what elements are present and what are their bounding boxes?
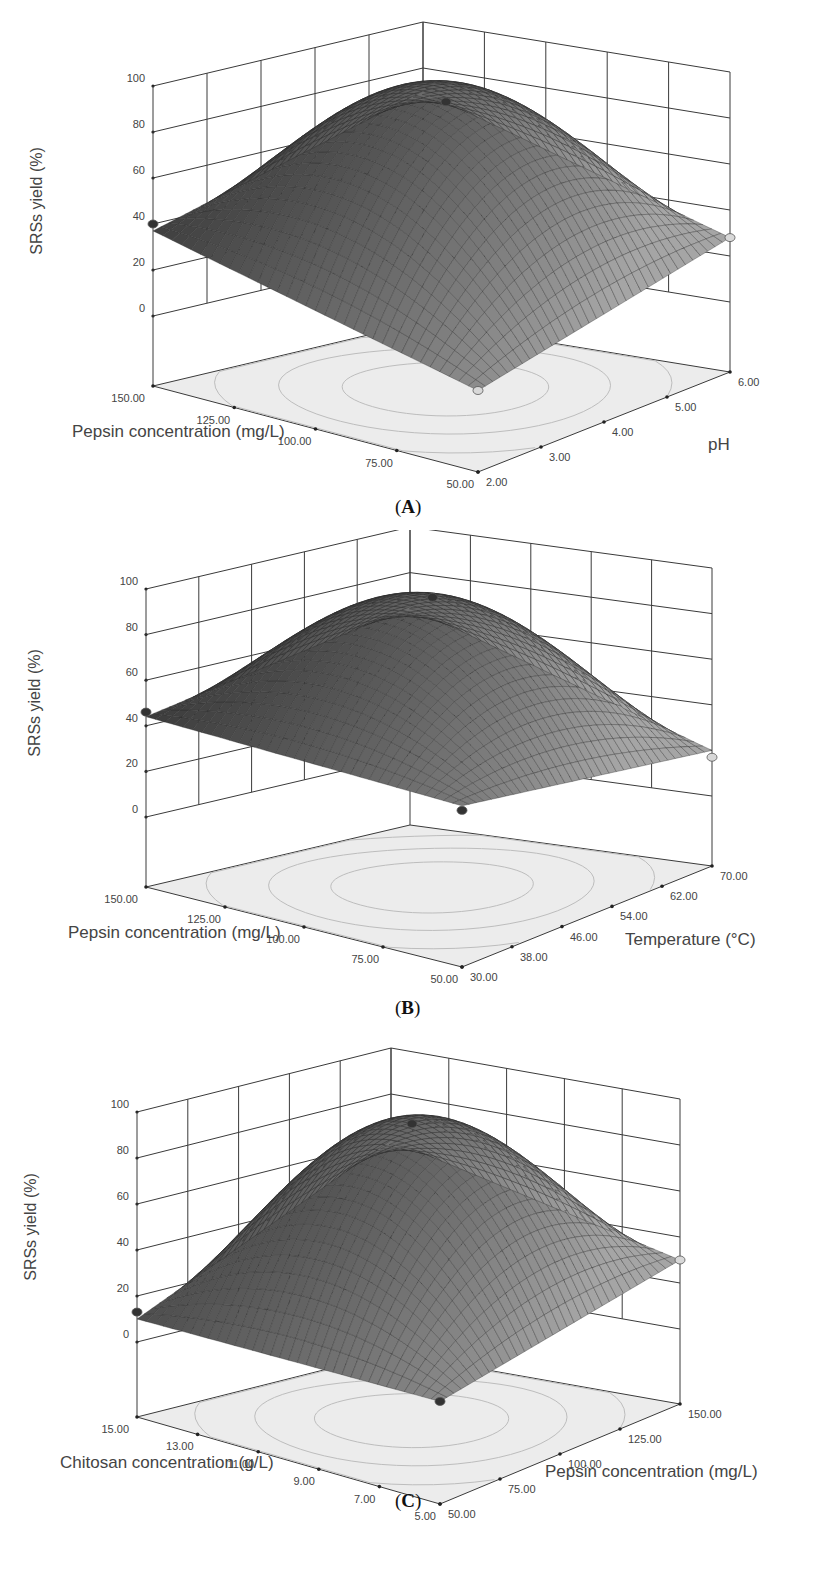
- z-tick-label: 60: [117, 1190, 129, 1202]
- x-tick-label: 15.00: [101, 1423, 129, 1435]
- y-axis-label: Pepsin concentration (mg/L): [545, 1462, 758, 1481]
- z-axis-label: SRSs yield (%): [28, 147, 45, 255]
- z-axis-label: SRSs yield (%): [26, 649, 43, 757]
- z-tick-label: 60: [126, 666, 138, 678]
- x-tick-label: 50.00: [446, 478, 474, 490]
- y-tick-label: 62.00: [670, 890, 698, 902]
- z-tick-label: 100: [127, 72, 145, 84]
- design-point: [457, 806, 467, 814]
- x-tick-label: 13.00: [166, 1440, 194, 1452]
- z-tick-label: 0: [132, 803, 138, 815]
- x-axis-label: Chitosan concentration (g/L): [60, 1453, 274, 1472]
- surface-chart-c: 02040608010015.0013.0011.009.007.005.005…: [0, 1030, 832, 1530]
- z-tick-label: 80: [126, 621, 138, 633]
- design-point: [435, 1397, 445, 1405]
- z-tick-label: 0: [123, 1328, 129, 1340]
- x-axis-label: Pepsin concentration (mg/L): [68, 923, 281, 942]
- x-axis-label: Pepsin concentration (mg/L): [72, 422, 285, 441]
- y-tick-label: 70.00: [720, 870, 748, 882]
- x-tick-label: 75.00: [351, 953, 379, 965]
- design-point: [132, 1308, 142, 1316]
- y-tick-label: 5.00: [675, 401, 696, 413]
- z-tick-label: 40: [117, 1236, 129, 1248]
- panel-label-c: (C): [395, 1490, 421, 1512]
- y-tick-label: 4.00: [612, 426, 633, 438]
- response-surface: [153, 81, 730, 391]
- response-surface: [137, 1115, 680, 1402]
- x-tick-label: 150.00: [104, 893, 138, 905]
- y-tick-label: 125.00: [628, 1433, 662, 1445]
- x-tick-label: 150.00: [111, 392, 145, 404]
- z-axis-label: SRSs yield (%): [22, 1173, 39, 1281]
- panel-label-a: (A): [395, 496, 421, 518]
- design-point: [473, 387, 483, 395]
- panel-label-b: (B): [395, 997, 420, 1019]
- panel-c: 02040608010015.0013.0011.009.007.005.005…: [0, 1030, 832, 1570]
- y-tick-label: 54.00: [620, 910, 648, 922]
- response-surface: [146, 592, 712, 806]
- x-tick-label: 7.00: [354, 1493, 375, 1505]
- z-tick-label: 100: [120, 575, 138, 587]
- z-tick-label: 40: [126, 712, 138, 724]
- z-tick-label: 20: [133, 256, 145, 268]
- y-tick-label: 30.00: [470, 971, 498, 983]
- design-point: [441, 98, 451, 106]
- y-tick-label: 2.00: [486, 476, 507, 488]
- z-tick-label: 40: [133, 210, 145, 222]
- surface-chart-a: 020406080100150.00125.00100.0075.0050.00…: [0, 0, 832, 500]
- z-tick-label: 0: [139, 302, 145, 314]
- z-tick-label: 60: [133, 164, 145, 176]
- y-tick-label: 50.00: [448, 1508, 476, 1520]
- z-tick-label: 20: [126, 757, 138, 769]
- z-tick-label: 20: [117, 1282, 129, 1294]
- design-point: [725, 234, 735, 242]
- design-point: [675, 1256, 685, 1264]
- design-point: [707, 753, 717, 761]
- panel-b: 020406080100150.00125.00100.0075.0050.00…: [0, 530, 832, 1030]
- y-tick-label: 150.00: [688, 1408, 722, 1420]
- z-tick-label: 80: [133, 118, 145, 130]
- x-tick-label: 75.00: [365, 457, 393, 469]
- y-axis-label: pH: [708, 435, 730, 454]
- design-point: [148, 220, 158, 228]
- design-point: [407, 1120, 417, 1128]
- y-tick-label: 6.00: [738, 376, 759, 388]
- x-tick-label: 50.00: [430, 973, 458, 985]
- y-axis-label: Temperature (°C): [625, 930, 756, 949]
- y-tick-label: 38.00: [520, 951, 548, 963]
- design-point: [428, 593, 438, 601]
- z-tick-label: 80: [117, 1144, 129, 1156]
- panel-a: 020406080100150.00125.00100.0075.0050.00…: [0, 0, 832, 530]
- surface-chart-b: 020406080100150.00125.00100.0075.0050.00…: [0, 530, 832, 1010]
- x-tick-label: 9.00: [293, 1475, 314, 1487]
- y-tick-label: 46.00: [570, 931, 598, 943]
- z-tick-label: 100: [111, 1098, 129, 1110]
- design-point: [141, 708, 151, 716]
- y-tick-label: 3.00: [549, 451, 570, 463]
- y-tick-label: 75.00: [508, 1483, 536, 1495]
